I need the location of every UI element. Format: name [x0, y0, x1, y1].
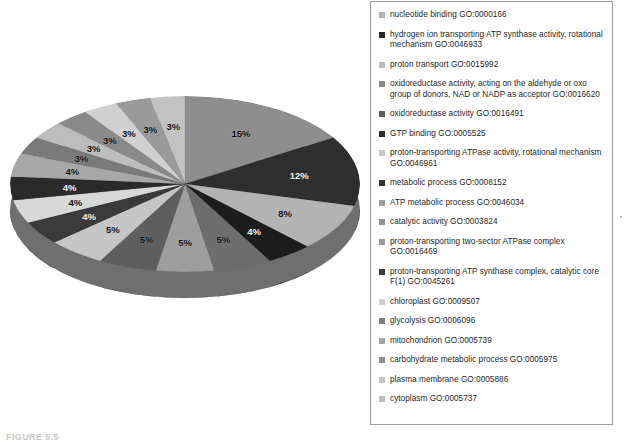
pie-wall-segment [56, 270, 100, 298]
pie-slice-percent-label: 5% [216, 233, 230, 244]
legend-swatch-icon [379, 111, 385, 117]
legend-swatch-icon [379, 338, 385, 344]
pie-slice-percent-label: 3% [122, 128, 136, 139]
legend-swatch-icon [379, 239, 385, 245]
pie-slice-percent-label: 4% [247, 225, 261, 236]
legend-item-label: cytoplasm GO:0005737 [390, 394, 477, 405]
legend-item-label: catalytic activity GO:0003824 [390, 217, 497, 228]
legend-item-label: ATP metabolic process GO:0046034 [390, 198, 524, 209]
legend-item-label: plasma membrane GO:0005886 [390, 375, 508, 386]
legend-swatch-icon [379, 81, 385, 87]
legend-swatch-icon [379, 357, 385, 363]
legend-item-label: proton-transporting ATP synthase complex… [390, 267, 607, 288]
legend-item: proton-transporting ATPase activity, rot… [379, 148, 607, 169]
legend-swatch-icon [379, 396, 385, 402]
legend-item: proton transport GO:0015992 [379, 60, 607, 71]
legend-item: carbohydrate metabolic process GO:000597… [379, 355, 607, 366]
legend-swatch-icon [379, 12, 385, 18]
legend-item-label: glycolysis GO:0006096 [390, 316, 475, 327]
legend-item: mitochondrion GO:0005739 [379, 336, 607, 347]
legend-swatch-icon [379, 299, 385, 305]
pie-slice-percent-label: 8% [278, 208, 292, 219]
legend-item-label: proton-transporting ATPase activity, rot… [390, 148, 607, 169]
legend-swatch-icon [379, 269, 385, 275]
legend-item: hydrogen ion transporting ATP synthase a… [379, 30, 607, 51]
legend-item-label: carbohydrate metabolic process GO:000597… [390, 355, 557, 366]
legend-swatch-icon [379, 200, 385, 206]
pie-wall-segment [29, 250, 54, 295]
legend-item: glycolysis GO:0006096 [379, 316, 607, 327]
legend-box: nucleotide binding GO:0000166hydrogen io… [370, 1, 613, 425]
legend-item-label: chloroplast GO:0009507 [390, 297, 480, 308]
legend-item-label: proton transport GO:0015992 [390, 60, 498, 71]
pie-wall-segment [10, 211, 13, 253]
pie-slice-percent-label: 5% [140, 233, 154, 244]
legend-item-label: mitochondrion GO:0005739 [390, 336, 492, 347]
pie-slice-percent-label: 3% [103, 134, 117, 145]
legend-swatch-icon [379, 180, 385, 186]
pie-slice-percent-label: 4% [69, 197, 83, 208]
pie-slice-percent-label: 3% [144, 123, 158, 134]
legend-item: proton-transporting two-sector ATPase co… [379, 237, 607, 258]
legend-item: metabolic process GO:0008152 [379, 178, 607, 189]
pie-slice-percent-label: 4% [82, 211, 96, 222]
legend-item: proton-transporting ATP synthase complex… [379, 267, 607, 288]
legend-item-label: oxidoreductase activity GO:0016491 [390, 109, 524, 120]
pie-slice-percent-label: 15% [232, 128, 251, 139]
legend-item: chloroplast GO:0009507 [379, 297, 607, 308]
legend-item-label: GTP binding GO:0005525 [390, 129, 486, 140]
pie-slice-percent-label: 5% [106, 224, 120, 235]
legend-swatch-icon [379, 32, 385, 38]
legend-item: plasma membrane GO:0005886 [379, 375, 607, 386]
pie-wall-segment [13, 227, 28, 275]
pie-wall-segment [159, 297, 215, 298]
pie-chart: 15%12%8%4%5%5%5%5%4%4%4%4%3%3%3%3%3%3% [10, 96, 360, 311]
pie-chart-panel: 15%12%8%4%5%5%5%5%4%4%4%4%3%3%3%3%3%3% [0, 0, 368, 420]
legend-swatch-icon [379, 131, 385, 137]
pie-wall-segment [355, 210, 360, 257]
legend-swatch-icon [379, 377, 385, 383]
legend-item: cytoplasm GO:0005737 [379, 394, 607, 405]
pie-wall-segment [103, 288, 156, 298]
legend-list: nucleotide binding GO:0000166hydrogen io… [379, 10, 607, 414]
legend-item: GTP binding GO:0005525 [379, 129, 607, 140]
pie-wall-segment [271, 273, 307, 298]
pie-slice-percent-label: 4% [65, 166, 79, 177]
legend-item: catalytic activity GO:0003824 [379, 217, 607, 228]
figure-caption: FIGURE 5.5 [6, 432, 59, 446]
figure-root: 15%12%8%4%5%5%5%5%4%4%4%4%3%3%3%3%3%3% n… [0, 0, 628, 446]
pie-slice-percent-label: 12% [290, 170, 309, 181]
pie-slice-percent-label: 4% [63, 181, 77, 192]
pie-slice-percent-label: 3% [166, 121, 180, 132]
legend-swatch-icon [379, 62, 385, 68]
pie-slice-percent-label: 3% [87, 143, 101, 154]
legend-item-label: proton-transporting two-sector ATPase co… [390, 237, 607, 258]
legend-item-label: nucleotide binding GO:0000166 [390, 10, 507, 21]
legend-item-label: metabolic process GO:0008152 [390, 178, 507, 189]
pie-slice-percent-label: 5% [178, 237, 192, 248]
pie-wall-segment [217, 287, 269, 298]
legend-swatch-icon [379, 318, 385, 324]
legend-item: ATP metabolic process GO:0046034 [379, 198, 607, 209]
legend-swatch-icon [379, 219, 385, 225]
legend-item: nucleotide binding GO:0000166 [379, 10, 607, 21]
legend-item-label: oxidoreductase activity, acting on the a… [390, 79, 607, 100]
pie-slice-percent-label: 3% [74, 153, 88, 164]
legend-item: oxidoreductase activity, acting on the a… [379, 79, 607, 100]
margin-tick-mark [620, 216, 622, 218]
legend-item: oxidoreductase activity GO:0016491 [379, 109, 607, 120]
legend-item-label: hydrogen ion transporting ATP synthase a… [390, 30, 607, 51]
legend-swatch-icon [379, 150, 385, 156]
